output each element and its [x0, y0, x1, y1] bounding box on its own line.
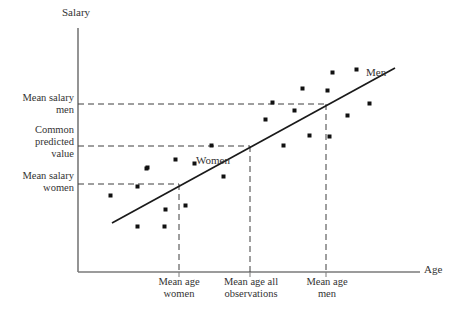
data-point: [136, 225, 140, 229]
data-point: [326, 89, 330, 93]
data-point: [146, 166, 150, 170]
data-point: [164, 208, 168, 212]
series-label-men: Men: [366, 66, 386, 78]
data-point: [184, 204, 188, 208]
scatter-points-men: [264, 68, 372, 148]
scatter-plot-figure: Salary Age Mean salary men Common predic…: [0, 0, 459, 312]
data-point: [210, 144, 214, 148]
data-point: [368, 102, 372, 106]
data-point: [331, 71, 335, 75]
data-point: [174, 158, 178, 162]
data-point: [301, 87, 305, 91]
data-point: [222, 175, 226, 179]
data-point: [109, 194, 113, 198]
x-annotation-mean-age-women: Mean age women: [142, 276, 216, 300]
data-point: [163, 225, 167, 229]
regression-line: [112, 68, 395, 223]
data-point: [328, 135, 332, 139]
y-annotation-mean-salary-men: Mean salary men: [0, 92, 74, 116]
x-annotation-mean-age-men: Mean age men: [292, 276, 362, 300]
data-point: [346, 114, 350, 118]
data-point: [293, 109, 297, 113]
data-point: [282, 144, 286, 148]
data-point: [308, 134, 312, 138]
y-axis-title: Salary: [62, 6, 90, 18]
x-axis-title: Age: [424, 263, 442, 275]
data-point: [264, 118, 268, 122]
y-annotation-common-predicted-value: Common predicted value: [0, 124, 74, 159]
data-point: [271, 101, 275, 105]
series-label-women: Women: [196, 154, 230, 166]
y-annotation-mean-salary-women: Mean salary women: [0, 170, 74, 194]
data-point: [355, 68, 359, 72]
data-point: [136, 185, 140, 189]
x-annotation-mean-age-all-observations: Mean age all observations: [206, 276, 296, 300]
